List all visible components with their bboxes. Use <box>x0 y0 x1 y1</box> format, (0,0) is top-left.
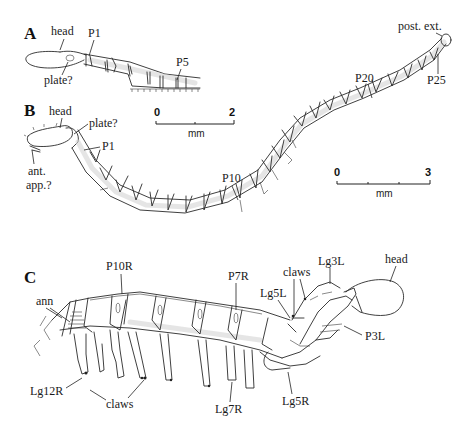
label-a-p1: P1 <box>88 26 101 40</box>
label-b-ant-app-2: app.? <box>26 178 52 192</box>
panel-b: B <box>24 19 451 213</box>
label-c-lg12r: Lg12R <box>30 384 63 398</box>
panel-c: C <box>24 252 408 416</box>
label-a-plate: plate? <box>44 73 73 87</box>
label-b-p1: P1 <box>102 139 115 153</box>
panel-letter-b: B <box>24 101 35 120</box>
scientific-figure: A head P1 plate? <box>0 0 466 429</box>
scale-bar-2mm: 0 2 mm <box>154 106 235 139</box>
panel-a: A head P1 plate? <box>24 24 200 92</box>
label-c-lg5r: Lg5R <box>282 394 309 408</box>
label-c-lg3l: Lg3L <box>318 254 345 268</box>
scale-bar-3mm: 0 3 mm <box>334 166 431 199</box>
label-b-p20: P20 <box>355 71 374 85</box>
scale-bar-2mm-unit: mm <box>188 128 205 139</box>
label-b-post-ext: post. ext. <box>398 19 442 33</box>
label-b-head: head <box>49 104 72 118</box>
label-b-plate: plate? <box>89 116 118 130</box>
label-c-lg7r: Lg7R <box>215 402 242 416</box>
scale-bar-2mm-end: 2 <box>229 106 235 118</box>
panel-letter-a: A <box>24 24 37 43</box>
label-c-ann: ann <box>36 294 53 308</box>
scale-bar-3mm-unit: mm <box>376 188 393 199</box>
label-a-head: head <box>51 24 74 38</box>
label-c-head: head <box>385 252 408 266</box>
label-c-claws-top: claws <box>283 265 311 279</box>
specimen-c-drawing <box>34 280 404 388</box>
label-b-ant-app-1: ant. <box>28 164 46 178</box>
label-c-p7r: P7R <box>228 269 249 283</box>
label-b-p25: P25 <box>427 73 446 87</box>
panel-letter-c: C <box>24 268 36 287</box>
label-b-p10: P10 <box>222 171 241 185</box>
label-a-p5: P5 <box>176 55 189 69</box>
label-c-claws-bottom: claws <box>106 397 134 411</box>
scale-bar-3mm-start: 0 <box>334 166 340 178</box>
scale-bar-3mm-end: 3 <box>425 166 431 178</box>
label-c-lg5l: Lg5L <box>260 286 287 300</box>
label-c-p3l: P3L <box>365 329 385 343</box>
scale-bar-2mm-start: 0 <box>154 106 160 118</box>
label-c-p10r: P10R <box>106 259 133 273</box>
